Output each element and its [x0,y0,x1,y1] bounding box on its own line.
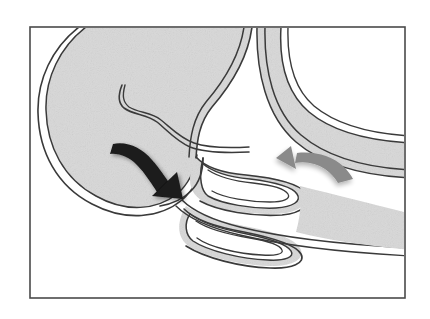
anatomy-figure [0,0,430,319]
anatomy-illustration [0,0,430,319]
